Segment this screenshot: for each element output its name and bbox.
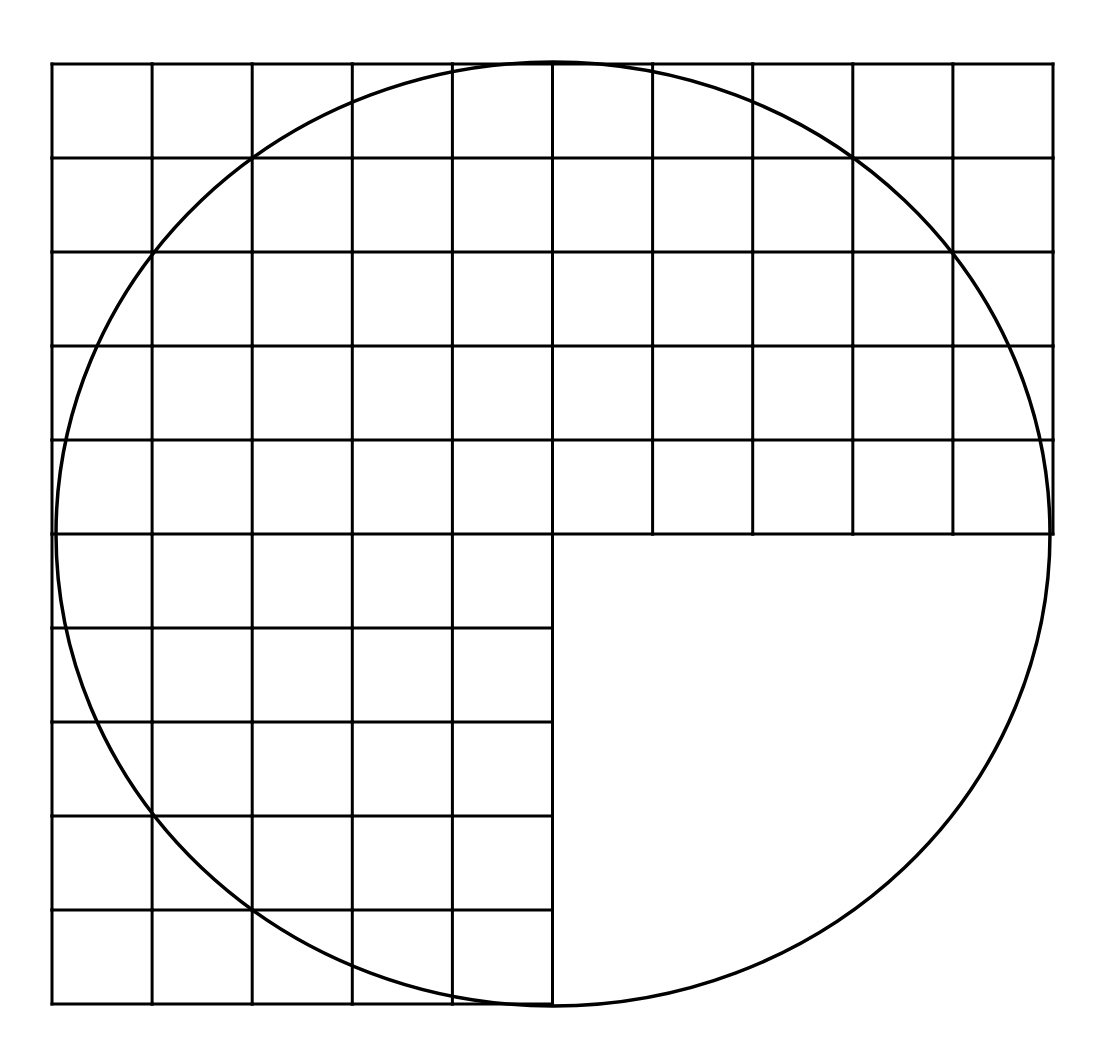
- grid-lines: [52, 64, 1053, 1004]
- grid-circle-diagram: [0, 0, 1115, 1058]
